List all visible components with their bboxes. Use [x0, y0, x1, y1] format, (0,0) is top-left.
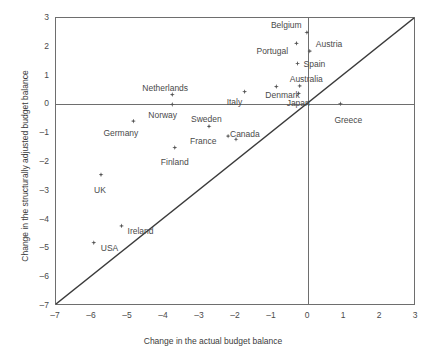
- data-point-label: Australia: [290, 75, 323, 84]
- data-point-label: Spain: [304, 60, 326, 69]
- scatter-chart: BelgiumAustriaPortugalSpainAustraliaDenm…: [0, 0, 426, 355]
- data-point-label: Portugal: [256, 47, 288, 56]
- data-point-label: Netherlands: [142, 84, 188, 93]
- x-tick-label: –7: [40, 311, 70, 320]
- x-tick-label: –6: [76, 311, 106, 320]
- data-point-label: UK: [94, 186, 106, 195]
- plot-area: BelgiumAustriaPortugalSpainAustraliaDenm…: [55, 17, 415, 305]
- x-tick-label: 0: [292, 311, 322, 320]
- data-point-label: Austria: [316, 40, 342, 49]
- x-tick-label: 2: [364, 311, 394, 320]
- x-tick-label: –4: [148, 311, 178, 320]
- x-tick-label: 3: [400, 311, 426, 320]
- y-axis-title: Change in the structurally adjusted budg…: [20, 21, 30, 311]
- data-point-label: Germany: [103, 129, 138, 138]
- data-point-label: Canada: [230, 130, 260, 139]
- data-point-label: France: [190, 137, 216, 146]
- data-point-label: Ireland: [128, 227, 154, 236]
- identity-reference-line: [56, 18, 414, 304]
- x-tick-label: –3: [184, 311, 214, 320]
- data-point-label: Belgium: [271, 21, 302, 30]
- x-tick-label: 1: [328, 311, 358, 320]
- x-axis-title: Change in the actual budget balance: [0, 336, 426, 346]
- data-point-label: Norway: [148, 111, 177, 120]
- x-tick-label: –2: [220, 311, 250, 320]
- data-point-label: Japan: [287, 99, 310, 108]
- data-point-label: Sweden: [191, 115, 222, 124]
- data-point-label: USA: [101, 244, 118, 253]
- data-point-label: Greece: [334, 116, 362, 125]
- x-tick-label: –5: [112, 311, 142, 320]
- data-point-label: Finland: [161, 158, 189, 167]
- x-tick-label: –1: [256, 311, 286, 320]
- data-point-label: Italy: [227, 98, 243, 107]
